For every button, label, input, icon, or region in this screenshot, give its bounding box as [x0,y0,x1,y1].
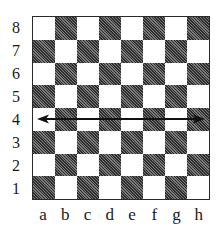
square-c7 [77,40,99,63]
rank-label-3: 3 [9,135,23,151]
square-f5 [143,85,165,108]
square-c3 [77,131,99,154]
rank-label-5: 5 [9,89,23,105]
square-g2 [165,154,187,177]
square-f2 [143,154,165,177]
square-b2 [55,154,77,177]
square-g5 [165,85,187,108]
square-h3 [187,131,209,154]
square-e7 [121,40,143,63]
rank-label-1: 1 [9,181,23,197]
square-f1 [143,176,165,199]
square-a2 [33,154,55,177]
square-g4 [165,108,187,131]
file-label-f: f [143,206,165,224]
square-b3 [55,131,77,154]
square-f3 [143,131,165,154]
square-f4 [143,108,165,131]
square-h7 [187,40,209,63]
file-label-g: g [166,206,188,224]
square-a8 [33,17,55,40]
square-f7 [143,40,165,63]
square-a1 [33,176,55,199]
square-e4 [121,108,143,131]
square-c8 [77,17,99,40]
file-label-a: a [32,206,54,224]
square-h1 [187,176,209,199]
file-label-h: h [188,206,210,224]
square-f8 [143,17,165,40]
file-label-b: b [54,206,76,224]
square-h4 [187,108,209,131]
square-b8 [55,17,77,40]
square-g1 [165,176,187,199]
square-d7 [99,40,121,63]
square-h8 [187,17,209,40]
square-g7 [165,40,187,63]
square-h6 [187,63,209,86]
square-e8 [121,17,143,40]
rank-label-8: 8 [9,20,23,36]
rank-label-2: 2 [9,158,23,174]
square-d8 [99,17,121,40]
square-e5 [121,85,143,108]
square-g6 [165,63,187,86]
square-a5 [33,85,55,108]
square-c5 [77,85,99,108]
square-b7 [55,40,77,63]
square-c1 [77,176,99,199]
square-f6 [143,63,165,86]
square-a6 [33,63,55,86]
rank-label-4: 4 [9,112,23,128]
square-e3 [121,131,143,154]
square-b6 [55,63,77,86]
square-c2 [77,154,99,177]
square-a4 [33,108,55,131]
square-c6 [77,63,99,86]
square-b4 [55,108,77,131]
square-c4 [77,108,99,131]
file-label-e: e [121,206,143,224]
square-a7 [33,40,55,63]
rank-label-6: 6 [9,66,23,82]
square-d5 [99,85,121,108]
square-e6 [121,63,143,86]
rank-label-7: 7 [9,43,23,59]
file-label-d: d [99,206,121,224]
square-d1 [99,176,121,199]
square-d6 [99,63,121,86]
square-e2 [121,154,143,177]
square-g3 [165,131,187,154]
square-a3 [33,131,55,154]
square-b1 [55,176,77,199]
square-b5 [55,85,77,108]
file-label-c: c [77,206,99,224]
square-d3 [99,131,121,154]
square-e1 [121,176,143,199]
square-d2 [99,154,121,177]
square-d4 [99,108,121,131]
square-h5 [187,85,209,108]
square-g8 [165,17,187,40]
square-h2 [187,154,209,177]
chessboard [32,16,210,200]
